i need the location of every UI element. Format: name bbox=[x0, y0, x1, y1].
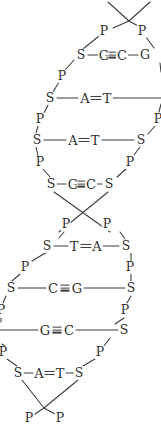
sugar-node: S bbox=[119, 324, 130, 337]
sugar-node: S bbox=[136, 134, 147, 147]
phosphate-node: P bbox=[125, 261, 135, 274]
crossover-bot-a bbox=[22, 380, 44, 408]
dna-diagram: S G C G S A T S A T S S G C S S T A S S … bbox=[0, 0, 161, 436]
phosphate-node: P bbox=[35, 113, 45, 126]
crossover-top-b bbox=[129, 2, 150, 21]
link-s3r-p3r bbox=[134, 147, 140, 155]
phosphate-node: P bbox=[24, 412, 34, 425]
phosphate-node: P bbox=[99, 25, 109, 38]
crossover-bot-to-pl bbox=[35, 408, 44, 414]
hydrogen-bond-double bbox=[90, 96, 103, 100]
phosphate-node: P bbox=[57, 70, 67, 83]
base-label-left: T bbox=[69, 240, 80, 253]
hydrogen-bond-triple bbox=[52, 327, 63, 334]
sugar-node: S bbox=[6, 282, 17, 295]
link-p7r-s8r bbox=[83, 359, 95, 366]
sugar-node: S bbox=[13, 367, 24, 380]
phosphate-node: P bbox=[20, 261, 30, 274]
phosphate-node: P bbox=[120, 304, 130, 317]
sugar-node: S bbox=[74, 367, 85, 380]
sugar-node: S bbox=[32, 134, 43, 147]
crossover-bot-b bbox=[44, 380, 78, 408]
link-s5-p5 bbox=[32, 252, 47, 261]
sugar-node: S bbox=[104, 178, 115, 191]
sugar-node: S bbox=[126, 282, 137, 295]
link-pl4-s5 bbox=[59, 232, 64, 238]
base-label-right: T bbox=[55, 367, 66, 380]
phosphate-node: P bbox=[153, 113, 161, 126]
crossover-top-to-pl bbox=[113, 21, 129, 28]
crossover-bot-to-pr bbox=[44, 408, 55, 414]
sugar-node: S bbox=[42, 240, 53, 253]
sugar-node: S bbox=[45, 92, 56, 105]
base-label-right: C bbox=[63, 324, 75, 337]
phosphate-node: P bbox=[95, 346, 105, 359]
phosphate-node: P bbox=[125, 156, 135, 169]
link-p2r-s3r bbox=[148, 126, 155, 134]
sugar-node: S bbox=[121, 240, 132, 253]
phosphate-node: P bbox=[0, 304, 6, 317]
hydrogen-bond-triple bbox=[60, 285, 71, 292]
phosphate-node: P bbox=[35, 156, 45, 169]
crossover-top-a bbox=[108, 2, 129, 21]
base-label-right: T bbox=[90, 134, 101, 147]
phosphate-node: P bbox=[0, 346, 8, 359]
link-s1-p1 bbox=[65, 60, 74, 70]
base-label-right: G bbox=[71, 282, 83, 295]
base-label-right: C bbox=[85, 178, 97, 191]
phosphate-node: P bbox=[61, 218, 71, 231]
hydrogen-bond-double bbox=[78, 138, 91, 142]
link-s1r-down bbox=[160, 63, 161, 72]
phosphate-node: P bbox=[55, 412, 65, 425]
link-p3r-s4r bbox=[117, 169, 126, 177]
base-label-left: C bbox=[47, 282, 59, 295]
phosphate-node: P bbox=[102, 218, 112, 231]
phosphate-node: P bbox=[137, 25, 147, 38]
base-label-left: G bbox=[39, 324, 51, 337]
base-label-right: A bbox=[91, 240, 102, 253]
base-label-right: C bbox=[116, 49, 128, 62]
sugar-node: S bbox=[46, 178, 57, 191]
base-label-right: T bbox=[102, 92, 113, 105]
sugar-node: G bbox=[139, 49, 151, 62]
strand-paths bbox=[0, 2, 161, 414]
sugar-node: S bbox=[76, 49, 87, 62]
link-ptop-s1 bbox=[83, 36, 99, 49]
